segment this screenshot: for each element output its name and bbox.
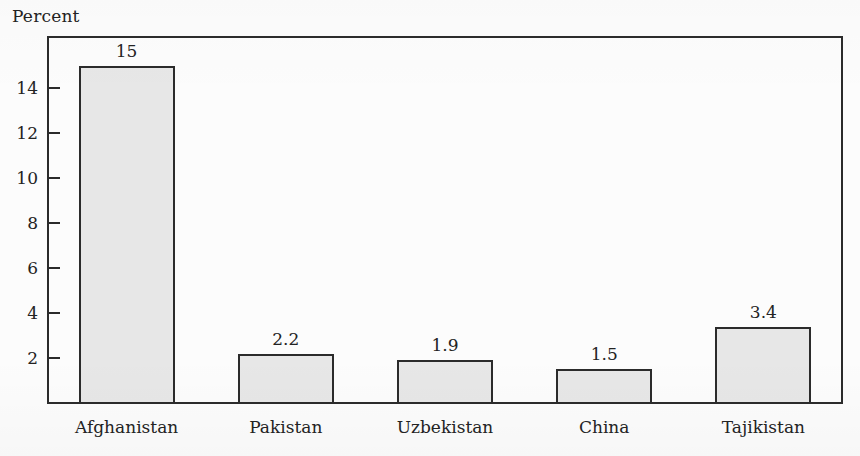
x-axis-category-label: Tajikistan: [722, 417, 805, 437]
y-axis-tick: [47, 132, 60, 134]
y-axis-tick-label: 12: [4, 123, 38, 143]
y-axis-tick: [47, 177, 60, 179]
x-axis-category-label: Afghanistan: [75, 417, 178, 437]
y-axis-tick: [47, 312, 60, 314]
bar: [556, 369, 652, 404]
x-axis-category-label: China: [579, 417, 629, 437]
y-axis-tick-label: 6: [4, 258, 38, 278]
y-axis-tick-label: 10: [4, 168, 38, 188]
y-axis-tick-label: 14: [4, 78, 38, 98]
x-axis-category-label: Uzbekistan: [397, 417, 494, 437]
bar-value-label: 1.5: [591, 344, 618, 364]
bar-value-label: 2.2: [272, 329, 299, 349]
x-axis-category-label: Pakistan: [249, 417, 322, 437]
bar-chart-figure: Percent 2468101214 152.21.91.53.4 Afghan…: [0, 0, 860, 456]
y-axis-caption: Percent: [12, 6, 80, 26]
y-axis-tick: [47, 87, 60, 89]
y-axis-tick-label: 2: [4, 348, 38, 368]
y-axis-tick-label: 4: [4, 303, 38, 323]
bar-value-label: 15: [116, 41, 138, 61]
bar: [79, 66, 175, 405]
y-axis-tick: [47, 267, 60, 269]
bar: [715, 327, 811, 405]
y-axis-tick: [47, 222, 60, 224]
bar: [238, 354, 334, 405]
y-axis-tick-label: 8: [4, 213, 38, 233]
bar-value-label: 1.9: [431, 335, 458, 355]
y-axis-tick: [47, 357, 60, 359]
bar-value-label: 3.4: [750, 302, 777, 322]
bar: [397, 360, 493, 404]
